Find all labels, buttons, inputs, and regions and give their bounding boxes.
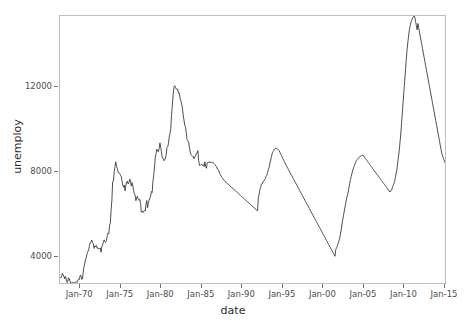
x-tick-mark [160,284,161,288]
plot-panel [59,15,446,284]
x-tick-mark [201,284,202,288]
y-tick-mark [54,171,58,172]
unemployment-line-series [60,16,445,283]
x-tick-label: Jan-90 [228,289,255,299]
x-tick-label: Jan-85 [187,289,214,299]
x-tick-label: Jan-00 [309,289,336,299]
y-axis-labels: 4000800012000 [0,0,52,329]
x-tick-label: Jan-05 [349,289,376,299]
x-tick-mark [444,284,445,288]
y-tick-label: 8000 [30,166,52,176]
x-axis-title: date [0,304,466,317]
x-tick-label: Jan-70 [66,289,93,299]
x-axis-labels: Jan-70Jan-75Jan-80Jan-85Jan-90Jan-95Jan-… [0,289,466,303]
x-tick-mark [403,284,404,288]
chart-root: 4000800012000 Jan-70Jan-75Jan-80Jan-85Ja… [0,0,466,329]
y-tick-label: 4000 [30,251,52,261]
x-tick-mark [120,284,121,288]
x-tick-mark [282,284,283,288]
x-tick-mark [322,284,323,288]
x-tick-mark [363,284,364,288]
y-tick-mark [54,256,58,257]
x-tick-label: Jan-75 [106,289,133,299]
y-axis-title: unemploy [11,87,24,207]
y-tick-mark [54,86,58,87]
x-tick-label: Jan-80 [147,289,174,299]
x-tick-label: Jan-95 [268,289,295,299]
x-tick-label: Jan-15 [430,289,457,299]
x-tick-mark [241,284,242,288]
x-tick-label: Jan-10 [390,289,417,299]
y-tick-label: 12000 [25,81,52,91]
x-tick-mark [79,284,80,288]
series-polyline [60,16,445,283]
